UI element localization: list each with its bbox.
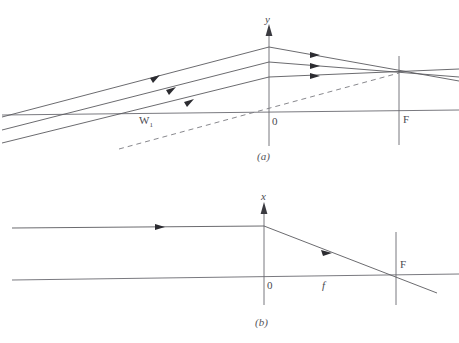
incoming-ray-2 xyxy=(2,62,269,130)
focal-length-label: f xyxy=(322,280,325,291)
outgoing-ray-arrowhead-3 xyxy=(310,73,320,79)
y-axis-arrowhead xyxy=(266,24,273,36)
figure-canvas xyxy=(0,0,459,343)
incoming-ray-3 xyxy=(2,77,269,143)
wavefront-label-subscript: 1 xyxy=(149,121,153,129)
outgoing-ray-arrowhead-2 xyxy=(310,63,320,69)
panel-b-group xyxy=(12,202,459,305)
wavefront-label-text: W xyxy=(139,114,149,126)
focus-label-a: F xyxy=(403,114,409,125)
panel-a-group xyxy=(2,24,459,149)
x-axis-label: x xyxy=(261,191,266,202)
wavefront-label-w1: W1 xyxy=(139,115,153,129)
caption-panel-b: (b) xyxy=(255,316,268,328)
incoming-ray-arrowhead-1 xyxy=(150,75,160,83)
incoming-ray-1 xyxy=(2,47,269,117)
caption-panel-a: (a) xyxy=(257,150,270,162)
y-axis-label: y xyxy=(265,14,270,25)
incoming-ray-arrowhead-b xyxy=(155,224,165,230)
optical-axis-b xyxy=(12,274,459,280)
focus-label-b: F xyxy=(400,259,406,270)
incoming-ray-arrowhead-3 xyxy=(184,99,194,107)
incoming-ray-axial xyxy=(12,226,264,228)
x-axis-arrowhead xyxy=(261,202,268,214)
outgoing-ray-arrowhead-b xyxy=(321,250,332,256)
figure-root: y W1 0 F (a) x 0 f F (b) xyxy=(0,0,459,343)
outgoing-ray-arrowhead-1 xyxy=(310,52,320,58)
origin-label-a: 0 xyxy=(272,116,278,127)
outgoing-ray-axial xyxy=(264,226,437,293)
origin-label-b: 0 xyxy=(267,280,273,291)
